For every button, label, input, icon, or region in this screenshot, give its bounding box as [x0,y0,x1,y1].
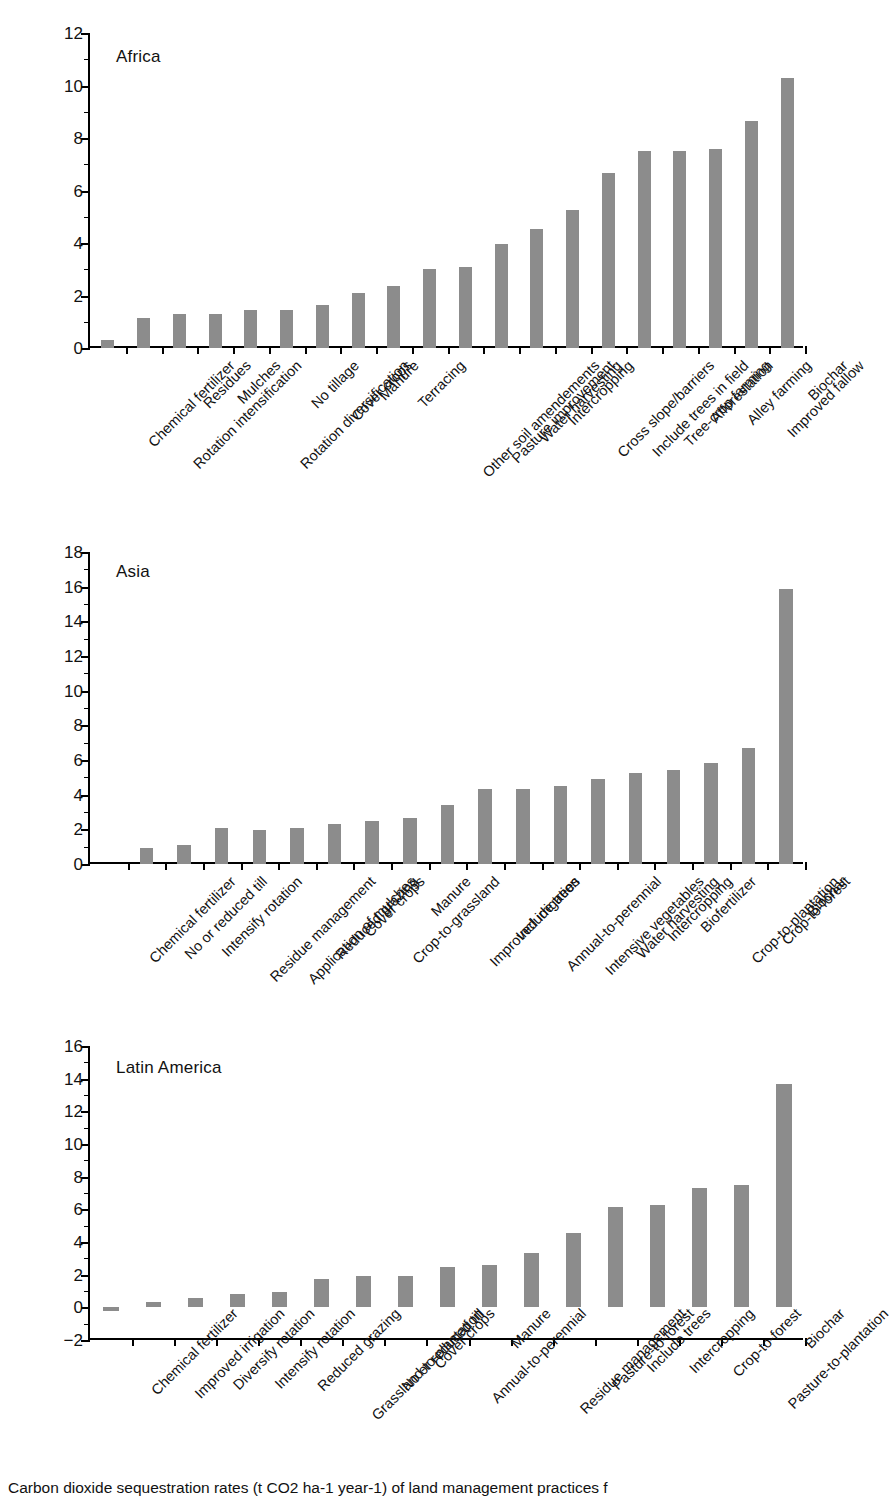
bar [692,1188,707,1307]
bar [781,78,794,348]
bar [516,789,530,864]
bar [140,848,154,864]
y-axis-minor-tick [84,1193,90,1194]
y-axis-minor-tick [84,1128,90,1129]
x-axis-tick [730,862,732,870]
bar [188,1298,203,1307]
x-axis-tick [617,862,619,870]
bar [101,340,114,348]
x-axis-tick [483,346,485,354]
y-axis-tick-label: 16 [64,578,83,595]
bar [290,828,304,864]
bar [244,310,257,348]
bar [591,779,605,864]
y-axis-tick-label: 2 [74,1266,83,1283]
x-axis-tick [426,1338,428,1346]
plot-area: 024681012 [88,33,803,348]
y-axis-minor-tick [84,112,90,113]
bar [365,821,379,864]
bar [495,244,508,348]
panel-title: Asia [116,562,150,582]
bar [398,1276,413,1307]
x-axis-tick [162,346,164,354]
y-axis-minor-tick [84,639,90,640]
y-axis-tick-label: 8 [74,130,83,147]
y-axis-tick-label: 14 [64,613,83,630]
y-axis-minor-tick [84,673,90,674]
x-axis-tick [698,346,700,354]
bar [328,824,342,864]
panel-title: Latin America [116,1058,222,1078]
bar [566,210,579,348]
x-axis-tick [132,1338,134,1346]
x-axis-tick [767,862,769,870]
y-axis-minor-tick [84,269,90,270]
bar [667,770,681,864]
bar [146,1302,161,1307]
bar [650,1205,665,1307]
bar [482,1265,497,1307]
y-axis-minor-tick [84,1095,90,1096]
bar [779,589,793,864]
bar [441,805,455,864]
x-axis-tick [805,862,807,870]
x-axis-tick [126,346,128,354]
bar [638,151,651,348]
bar [272,1292,287,1307]
x-axis-tick [595,1338,597,1346]
y-axis-minor-tick [84,847,90,848]
y-axis-minor-tick [84,743,90,744]
plot-area: −20246810121416 [88,1046,803,1340]
y-axis-minor-tick [84,59,90,60]
bar [709,149,722,349]
y-axis-minor-tick [84,164,90,165]
bar [459,267,472,348]
x-axis-tick [300,1338,302,1346]
y-axis-tick-label: 10 [64,77,83,94]
x-axis-tick [429,862,431,870]
bar [478,789,492,864]
y-axis-tick-label: 4 [74,786,83,803]
bar [103,1307,118,1310]
bar [704,763,718,864]
x-axis-tick [542,862,544,870]
y-axis-minor-tick [84,708,90,709]
y-axis-minor-tick [84,569,90,570]
x-axis-tick [654,862,656,870]
x-axis-tick [128,862,130,870]
figure-caption: Carbon dioxide sequestration rates (t CO… [8,1478,823,1497]
bar [554,786,568,864]
bar [253,830,267,864]
bar [209,314,222,348]
bar [524,1253,539,1308]
x-axis-tick [555,346,557,354]
bar [215,828,229,864]
y-axis-tick-label: 0 [74,340,83,357]
y-axis-tick-label: 8 [74,1168,83,1185]
bar [742,748,756,864]
bar [352,293,365,348]
y-axis-tick-label: 12 [64,1103,83,1120]
x-axis-category-label: Include trees [513,874,582,943]
y-axis-tick-label: −2 [64,1332,83,1349]
bar [734,1185,749,1308]
x-axis-tick [316,862,318,870]
x-axis-tick [241,862,243,870]
x-axis-tick [269,346,271,354]
x-axis-tick [391,862,393,870]
y-axis-tick-label: 0 [74,856,83,873]
x-axis-tick [165,862,167,870]
bar [314,1279,329,1308]
y-axis-tick-label: 12 [64,25,83,42]
y-axis-tick-label: 14 [64,1070,83,1087]
x-axis-tick [591,346,593,354]
y-axis-tick-label: 10 [64,1136,83,1153]
x-axis-tick [353,862,355,870]
x-axis-tick [662,346,664,354]
y-axis-tick-label: 6 [74,182,83,199]
x-axis-tick [769,346,771,354]
x-axis-tick [278,862,280,870]
y-axis-minor-tick [84,604,90,605]
x-axis-tick [504,862,506,870]
